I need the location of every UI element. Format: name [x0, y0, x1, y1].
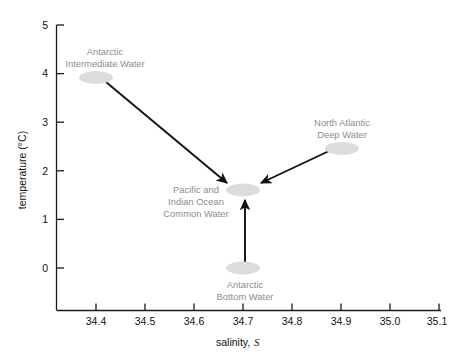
x-tick-label: 34.8	[282, 315, 303, 327]
chart-canvas: 5 4 3 2 1 0 34.4 34.5 34.6 34.7 34.8 34.…	[0, 0, 455, 357]
label-pacific-indian-common-water: Pacific and Indian Ocean Common Water	[163, 184, 228, 219]
arrow-aaiw-to-common	[106, 82, 227, 183]
water-mass-ts-diagram: 5 4 3 2 1 0 34.4 34.5 34.6 34.7 34.8 34.…	[0, 0, 455, 357]
y-axis-tick-labels: 5 4 3 2 1 0	[42, 19, 48, 274]
y-tick-label: 2	[42, 165, 48, 177]
x-tick-label: 34.5	[135, 315, 156, 327]
label-line: Antarctic	[87, 46, 124, 57]
y-tick-label: 0	[42, 262, 48, 274]
x-tick-label: 34.7	[233, 315, 254, 327]
label-line: Common Water	[163, 208, 228, 219]
x-tick-label: 35.1	[427, 315, 448, 327]
x-tick-label: 34.4	[86, 315, 107, 327]
label-antarctic-intermediate-water: Antarctic Intermediate Water	[65, 46, 144, 69]
x-axis-title-symbol: S	[254, 336, 260, 348]
label-antarctic-bottom-water: Antarctic Bottom Water	[217, 279, 274, 302]
x-axis-ticks	[96, 304, 439, 311]
y-axis-title: temperature (°C)	[16, 131, 28, 209]
label-line: Antarctic	[227, 279, 264, 290]
x-tick-label: 35.0	[380, 315, 401, 327]
y-tick-label: 1	[42, 213, 48, 225]
marker-pacific-indian-common-water	[226, 184, 260, 197]
y-tick-label: 3	[42, 116, 48, 128]
x-tick-label: 34.6	[184, 315, 205, 327]
x-axis-tick-labels: 34.4 34.5 34.6 34.7 34.8 34.9 35.0 35.1	[86, 315, 448, 327]
label-line: Indian Ocean	[168, 196, 224, 207]
label-line: Intermediate Water	[65, 58, 144, 69]
x-tick-label: 34.9	[331, 315, 352, 327]
marker-north-atlantic-deep-water	[325, 142, 359, 155]
y-axis-ticks	[57, 25, 65, 268]
label-line: Deep Water	[317, 129, 367, 140]
label-line: Pacific and	[173, 184, 219, 195]
marker-antarctic-intermediate-water	[79, 71, 113, 84]
y-tick-label: 4	[42, 67, 48, 79]
y-tick-label: 5	[42, 19, 48, 31]
arrow-nadw-to-common	[261, 151, 329, 183]
marker-antarctic-bottom-water	[226, 262, 260, 275]
label-north-atlantic-deep-water: North Atlantic Deep Water	[314, 117, 370, 140]
label-line: Bottom Water	[217, 291, 274, 302]
x-axis-title: salinity,	[216, 336, 250, 348]
label-line: North Atlantic	[314, 117, 370, 128]
